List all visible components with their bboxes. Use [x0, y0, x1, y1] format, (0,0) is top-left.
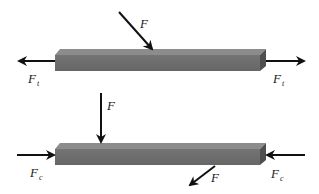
bar-top-face [55, 49, 266, 55]
bottom-left-compression-force: Fc [17, 155, 54, 182]
top-right-tension-force: Ft [266, 61, 304, 88]
force-label-F: F [139, 16, 149, 31]
bar-front-face [55, 55, 260, 71]
bottom-applied-force-bottom: F [190, 166, 220, 185]
force-label-F: F [106, 98, 116, 113]
force-label-Fc: Fc [29, 165, 43, 182]
top-applied-force: F [119, 12, 152, 49]
bottom-right-compression-force: Fc [267, 155, 305, 183]
top-left-tension-force: Ft [19, 61, 55, 88]
tension-bar [55, 49, 266, 71]
force-label-Fc: Fc [270, 166, 284, 183]
bar-front-face [55, 149, 260, 165]
force-label-Ft: Ft [27, 71, 40, 88]
force-diagram: F Ft Ft F F Fc Fc [0, 0, 319, 194]
compression-bar [55, 143, 266, 165]
force-label-F: F [210, 170, 220, 185]
bottom-applied-force-top: F [101, 93, 116, 142]
force-label-Ft: Ft [272, 71, 285, 88]
bar-top-face [55, 143, 266, 149]
